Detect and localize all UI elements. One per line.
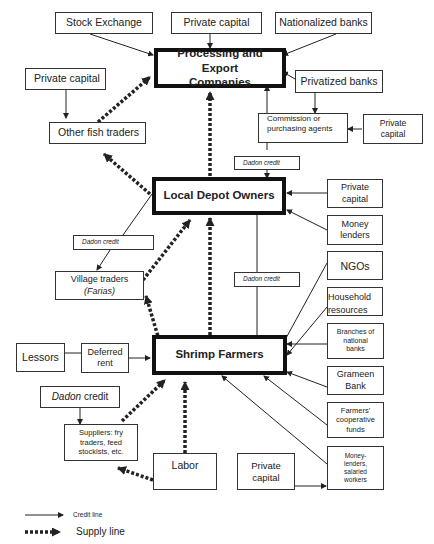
node-grameen-bank: Grameen Bank (327, 366, 384, 395)
node-label: Village traders (71, 274, 128, 285)
node-private-capital-right: Private capital (363, 114, 423, 144)
node-processing-export-companies: Processing and Export Companies (154, 48, 286, 88)
node-label: Deferred (87, 347, 122, 358)
node-label: Processing and Export (158, 46, 282, 75)
node-label: banks (346, 345, 365, 354)
legend-supply-line-label: Supply line (76, 526, 125, 537)
node-label: Commission or (267, 114, 320, 124)
node-nationalized-banks: Nationalized banks (275, 12, 372, 34)
node-label: Stock Exchange (66, 16, 142, 29)
node-label: funds (346, 425, 364, 434)
node-commission-agents: Commission or purchasing agents (258, 113, 348, 143)
node-label: resources (328, 305, 368, 316)
label-text: Dadon credit (82, 238, 119, 246)
label-dadon-credit-farmers: Dadon credit (234, 272, 300, 287)
node-private-capital-depot: Private capital (327, 179, 383, 208)
node-private-capital-top: Private capital (171, 12, 262, 34)
node-village-traders: Village traders (Farias) (55, 271, 144, 300)
node-label: Dadon credit (52, 391, 109, 404)
node-label: workers (344, 476, 367, 484)
node-label: Private capital (34, 72, 100, 85)
node-label: Money- (345, 452, 367, 460)
node-label: capital (252, 472, 279, 484)
node-label: Nationalized banks (279, 16, 368, 29)
node-branches-national-banks: Branches of national banks (327, 323, 384, 359)
node-label: stockists, etc. (78, 447, 123, 456)
node-label: Farmers' (341, 406, 370, 415)
node-label: Lessors (22, 351, 59, 364)
node-money-lenders: Money lenders (327, 215, 383, 245)
node-stock-exchange: Stock Exchange (55, 12, 153, 34)
node-private-capital-left: Private capital (25, 68, 106, 90)
node-label: Private (341, 182, 369, 193)
node-label: Private (251, 460, 281, 472)
node-label: capital (381, 129, 406, 140)
node-label: Suppliers: fry (79, 428, 123, 437)
node-label: Bank (345, 381, 366, 392)
node-label: lenders (340, 230, 370, 241)
node-ngos: NGOs (327, 251, 383, 280)
node-label: Labor (172, 459, 199, 472)
node-label: Privatized banks (300, 75, 377, 88)
node-label: purchasing agents (267, 124, 332, 134)
node-label: Local Depot Owners (163, 188, 274, 202)
node-label: rent (97, 358, 113, 369)
legend-credit-line-label: Credit line (73, 511, 102, 518)
node-label-rest: credit (81, 391, 108, 402)
node-label: Private (380, 118, 406, 129)
node-label: Companies (189, 75, 251, 89)
node-label: capital (342, 194, 368, 205)
node-label: lenders, (344, 460, 367, 468)
node-suppliers: Suppliers: fry traders, feed stockists, … (64, 424, 138, 461)
node-label: Household (328, 292, 371, 303)
node-shrimp-farmers: Shrimp Farmers (152, 335, 287, 375)
node-label: cooperative (336, 415, 375, 424)
node-labor: Labor (153, 453, 217, 490)
node-label: NGOs (340, 260, 369, 273)
node-dadon-credit-suppliers: Dadon credit (40, 386, 120, 408)
label-dadon-credit-depot: Dadon credit (234, 156, 300, 170)
node-label: Other fish traders (58, 126, 139, 139)
node-label: national (343, 337, 368, 346)
node-label: Private capital (184, 16, 250, 29)
node-label-italic: Dadon (52, 391, 81, 402)
node-label: traders, feed (80, 438, 122, 447)
node-lessors: Lessors (16, 343, 65, 372)
node-household-resources: Household resources (327, 287, 383, 316)
node-private-capital-bottom: Private capital (237, 453, 295, 490)
node-label: (Farias) (84, 286, 115, 297)
node-moneylenders-salaried-workers: Money- lenders, salaried workers (327, 446, 384, 490)
label-dadon-credit-village: Dadon credit (73, 235, 154, 250)
node-label: Money (341, 219, 368, 230)
node-privatized-banks: Privatized banks (295, 70, 383, 93)
node-label: salaried (344, 468, 367, 476)
label-text: Dadon credit (243, 275, 280, 283)
node-label: Branches of (337, 328, 374, 337)
node-other-fish-traders: Other fish traders (49, 122, 146, 144)
node-farmers-cooperative-funds: Farmers' cooperative funds (327, 402, 384, 438)
node-label: Grameen (337, 369, 375, 380)
node-label: Shrimp Farmers (175, 347, 263, 361)
node-local-depot-owners: Local Depot Owners (152, 177, 286, 215)
label-text: Dadon credit (243, 159, 280, 167)
node-deferred-rent: Deferred rent (81, 343, 129, 373)
